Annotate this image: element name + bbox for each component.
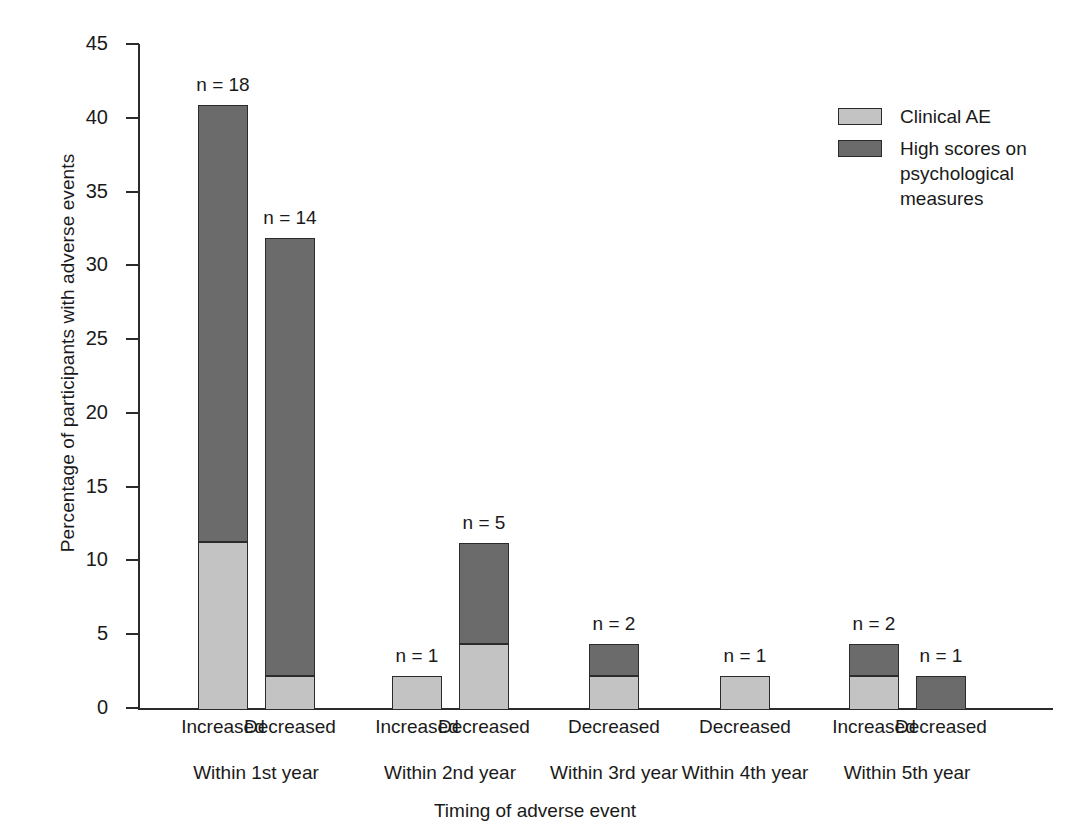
bar bbox=[720, 676, 770, 710]
x-axis-group-label: Within 4th year bbox=[660, 762, 830, 784]
y-axis-tick-label: 35 bbox=[62, 181, 108, 201]
x-axis-category-label: Decreased bbox=[685, 716, 805, 738]
y-axis-tick-label: 40 bbox=[62, 107, 108, 127]
y-axis-tick-label: 20 bbox=[62, 402, 108, 422]
bar-value-label: n = 1 bbox=[690, 646, 800, 666]
bar-segment-high-psych-scores bbox=[589, 644, 639, 676]
bar-segment-clinical-ae bbox=[459, 644, 509, 710]
bar bbox=[392, 676, 442, 710]
y-axis-tick-label: 0 bbox=[62, 697, 108, 717]
x-axis-category-label: Decreased bbox=[881, 716, 1001, 738]
y-axis-tick-label: 30 bbox=[62, 254, 108, 274]
bar-segment-high-psych-scores bbox=[459, 543, 509, 643]
y-axis-tick-label: 25 bbox=[62, 328, 108, 348]
bar-segment-clinical-ae bbox=[589, 676, 639, 710]
bar-segment-high-psych-scores bbox=[916, 676, 966, 710]
x-axis-category-label: Decreased bbox=[554, 716, 674, 738]
bar bbox=[589, 644, 639, 710]
bar bbox=[459, 543, 509, 710]
legend-label: Clinical AE bbox=[900, 104, 1068, 129]
x-axis-title: Timing of adverse event bbox=[0, 800, 1070, 822]
bar-segment-clinical-ae bbox=[720, 676, 770, 710]
bar-value-label: n = 14 bbox=[235, 208, 345, 228]
legend-label: High scores on psychological measures bbox=[900, 136, 1068, 211]
x-axis-group-label: Within 2nd year bbox=[365, 762, 535, 784]
bar-value-label: n = 1 bbox=[362, 646, 472, 666]
bar-segment-clinical-ae bbox=[849, 676, 899, 710]
bar-value-label: n = 1 bbox=[886, 646, 996, 666]
bar bbox=[198, 105, 248, 710]
bar-segment-high-psych-scores bbox=[265, 238, 315, 676]
y-axis-tick-label: 5 bbox=[62, 623, 108, 643]
x-axis-group-label: Within 1st year bbox=[171, 762, 341, 784]
legend-swatch bbox=[838, 108, 882, 125]
y-axis-tick-label: 15 bbox=[62, 476, 108, 496]
bar-value-label: n = 5 bbox=[429, 513, 539, 533]
y-axis-tick-label: 10 bbox=[62, 549, 108, 569]
bar bbox=[916, 676, 966, 710]
bar-segment-clinical-ae bbox=[265, 676, 315, 710]
bar-segment-high-psych-scores bbox=[198, 105, 248, 542]
y-axis-tick-label: 45 bbox=[62, 33, 108, 53]
x-axis-category-label: Decreased bbox=[230, 716, 350, 738]
bar-value-label: n = 2 bbox=[819, 614, 929, 634]
bar-value-label: n = 18 bbox=[168, 75, 278, 95]
x-axis-category-label: Decreased bbox=[424, 716, 544, 738]
legend-swatch bbox=[838, 140, 882, 157]
bar-segment-clinical-ae bbox=[198, 542, 248, 710]
x-axis-group-label: Within 5th year bbox=[822, 762, 992, 784]
chart-legend: Clinical AEHigh scores on psychological … bbox=[838, 104, 1068, 217]
legend-item: High scores on psychological measures bbox=[838, 136, 1068, 211]
bar-value-label: n = 2 bbox=[559, 614, 669, 634]
chart-figure: Percentage of participants with adverse … bbox=[0, 0, 1070, 837]
legend-item: Clinical AE bbox=[838, 104, 1068, 130]
bar bbox=[265, 238, 315, 710]
bar-segment-clinical-ae bbox=[392, 676, 442, 710]
